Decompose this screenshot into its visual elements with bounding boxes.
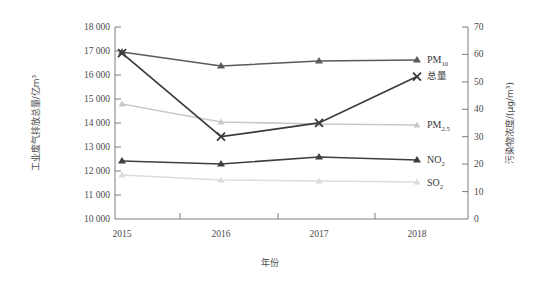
series-so2 [119, 172, 421, 185]
left-tick-label-13000: 13 000 [84, 142, 110, 152]
right-tick-label-70: 70 [474, 22, 484, 32]
right-tick-label-10: 10 [474, 187, 484, 197]
right-tick-label-50: 50 [474, 77, 484, 87]
legend-label-so2: SO2 [427, 177, 444, 190]
legend-item-no2[interactable]: NO2 [427, 154, 445, 167]
left-tick-label-18000: 18 000 [84, 22, 110, 32]
left-axis-title: 工业废气排放总量/亿m³ [30, 74, 41, 171]
legend-label-no2: NO2 [427, 154, 445, 167]
left-tick-label-10000: 10 000 [84, 214, 110, 224]
series-pm25 [119, 101, 421, 128]
right-tick-label-20: 20 [474, 159, 484, 169]
x-tick-label-2017: 2017 [310, 229, 329, 239]
legend-item-pm25[interactable]: PM2.5 [427, 119, 451, 132]
left-tick-label-15000: 15 000 [84, 94, 110, 104]
left-tick-label-12000: 12 000 [84, 166, 110, 176]
no2-line [122, 157, 417, 164]
x-tick-label-2016: 2016 [212, 229, 231, 239]
left-tick-label-14000: 14 000 [84, 118, 110, 128]
series-pm10 [118, 48, 421, 69]
legend: PM10 总量 PM2.5 NO2 SO2 [427, 54, 451, 190]
so2-line [122, 175, 417, 182]
right-axis: 70 60 50 40 30 20 10 0 污染物浓度/(μg/m³) [462, 22, 515, 224]
right-axis-title: 污染物浓度/(μg/m³) [504, 82, 515, 164]
x-tick-label-2018: 2018 [408, 229, 427, 239]
x-axis-title: 年份 [261, 257, 279, 268]
legend-label-total: 总量 [427, 70, 447, 81]
legend-item-pm10[interactable]: PM10 [427, 54, 449, 67]
right-tick-label-0: 0 [474, 214, 479, 224]
left-tick-label-17000: 17 000 [84, 46, 110, 56]
right-tick-label-60: 60 [474, 49, 484, 59]
legend-item-total[interactable]: 总量 [427, 70, 447, 81]
total-marker-2018 [413, 73, 421, 81]
line-chart-svg: 18 000 17 000 16 000 15 000 14 000 13 00… [0, 0, 536, 283]
left-tick-label-16000: 16 000 [84, 70, 110, 80]
chart-container: 18 000 17 000 16 000 15 000 14 000 13 00… [0, 0, 536, 283]
pm25-line [122, 104, 417, 125]
legend-label-pm25: PM2.5 [427, 119, 451, 132]
left-tick-label-11000: 11 000 [84, 190, 110, 200]
left-axis: 18 000 17 000 16 000 15 000 14 000 13 00… [30, 22, 121, 224]
right-tick-label-40: 40 [474, 104, 484, 114]
pm10-line [122, 52, 417, 66]
x-axis: 2015 2016 2017 2018 年份 [113, 213, 469, 268]
legend-label-pm10: PM10 [427, 54, 449, 67]
pm25-marker-2015 [119, 101, 126, 107]
x-tick-label-2015: 2015 [113, 229, 132, 239]
series-no2 [118, 153, 421, 167]
right-tick-label-30: 30 [474, 132, 484, 142]
legend-item-so2[interactable]: SO2 [427, 177, 444, 190]
